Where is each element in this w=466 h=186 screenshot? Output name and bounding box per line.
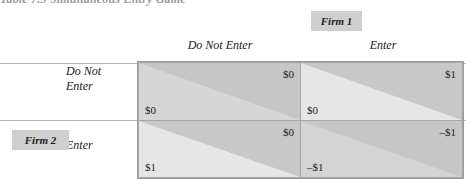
payoff-cell-enter-dne: $0 $1 (138, 120, 301, 178)
firm2-label-text: Firm 2 (25, 134, 56, 146)
payoff-cell-dne-enter: $1 $0 (300, 62, 463, 121)
payoff-cell-dne-dne: $0 $0 (138, 62, 301, 121)
payoff-matrix: $0 $0 $1 $0 $0 $1 –$1 –$1 (137, 61, 464, 179)
firm1-payoff: $0 (283, 68, 294, 80)
column-header-enter: Enter (301, 38, 465, 53)
row-header-enter: Enter (66, 138, 93, 153)
row-header-line1: Enter (66, 138, 93, 153)
cell-shading (139, 121, 300, 177)
firm1-payoff: $1 (445, 68, 456, 80)
row-header-line2: Enter (66, 79, 101, 94)
payoff-cell-enter-enter: –$1 –$1 (300, 120, 463, 178)
cell-shading (301, 63, 462, 120)
cell-shading (139, 63, 300, 120)
firm1-payoff: $0 (283, 126, 294, 138)
column-header-do-not-enter: Do Not Enter (137, 38, 303, 53)
table-title: Table 7.3 Simultaneous Entry Game (0, 0, 186, 7)
firm2-payoff: –$1 (307, 161, 324, 173)
row-header-line1: Do Not (66, 64, 101, 79)
firm2-payoff: $0 (145, 104, 156, 116)
cell-shading (301, 121, 462, 177)
firm1-payoff: –$1 (440, 126, 457, 138)
firm2-payoff: $1 (145, 161, 156, 173)
firm1-label: Firm 1 (311, 11, 362, 31)
firm2-payoff: $0 (307, 104, 318, 116)
firm2-label: Firm 2 (12, 130, 69, 150)
firm1-label-text: Firm 1 (321, 15, 352, 27)
row-header-do-not-enter: Do Not Enter (66, 64, 101, 94)
